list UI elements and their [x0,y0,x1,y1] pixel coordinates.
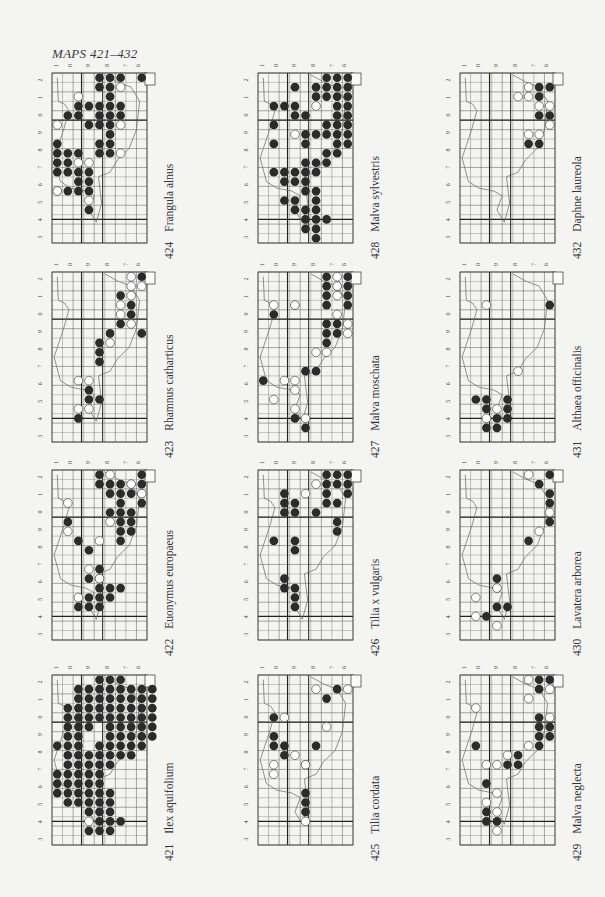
record-dot-open [74,376,83,385]
tick-label-side: 4 [37,820,43,823]
record-dot-filled [301,139,310,148]
record-dot-open [482,760,491,769]
record-dot-filled [95,83,104,92]
tick-label-top: 7 [531,461,537,464]
tick-label-top: 6 [341,461,347,464]
tick-label-top: 7 [329,666,335,669]
record-dot-filled [63,751,72,760]
record-dot-open [269,395,278,404]
record-dot-filled [280,741,289,750]
tick-label-top: 0 [273,666,279,669]
record-dot-filled [63,723,72,732]
record-dot-filled [280,196,289,205]
record-dot-open [85,405,94,414]
channel-islands-inset [351,470,361,482]
record-dot-filled [343,73,352,82]
channel-islands-inset [145,73,155,85]
tick-label-side: 8 [37,148,43,151]
record-dot-filled [333,685,342,694]
tick-label-side: 3 [445,236,451,239]
tick-label-top: 9 [291,461,297,464]
map-grid: 1098762109876543 [438,57,593,257]
tick-label-side: 3 [37,236,43,239]
tick-label-side: 8 [37,750,43,753]
tick-label-side: 5 [445,400,451,403]
record-dot-filled [106,73,115,82]
tick-label-top: 0 [273,263,279,266]
channel-islands-inset [351,73,361,85]
tick-label-side: 4 [243,820,249,823]
species-name: Ilex aquifolium [163,763,175,834]
tick-label-top: 6 [135,64,141,67]
record-dot-open [269,770,278,779]
record-dot-filled [322,301,331,310]
map-grid: 1098762109876543 [236,256,391,456]
record-dot-open [545,685,554,694]
record-dot-open [545,508,554,517]
record-dot-open [545,713,554,722]
record-dot-filled [106,675,115,684]
tick-label-side: 4 [243,615,249,618]
record-dot-filled [269,310,278,319]
tick-label-top: 1 [461,666,467,669]
record-dot-filled [343,92,352,101]
tick-label-side: 6 [243,183,249,186]
tick-label-side: 1 [37,96,43,99]
record-dot-filled [545,470,554,479]
record-dot-filled [116,111,125,120]
record-dot-open [291,301,300,310]
record-dot-filled [333,499,342,508]
record-dot-filled [322,73,331,82]
record-dot-filled [74,102,83,111]
distribution-map: 1098762109876543 [30,659,185,859]
record-dot-open [85,565,94,574]
record-dot-filled [535,480,544,489]
tick-label-side: 5 [243,201,249,204]
record-dot-filled [333,111,342,120]
record-dot-open [85,817,94,826]
record-dot-filled [333,102,342,111]
tick-label-side: 8 [445,545,451,548]
distribution-map: 1098762109876543 [30,57,185,257]
record-dot-open [74,593,83,602]
tick-label-side: 2 [37,681,43,684]
tick-label-side: 7 [445,563,451,566]
record-dot-filled [322,282,331,291]
record-dot-filled [137,470,146,479]
tick-label-side: 7 [37,365,43,368]
tick-label-side: 8 [37,545,43,548]
record-dot-filled [524,536,533,545]
tick-label-side: 1 [243,96,249,99]
tick-label-top: 7 [123,64,129,67]
record-dot-filled [95,685,104,694]
record-dot-filled [322,130,331,139]
tick-label-top: 6 [543,263,549,266]
tick-label-side: 6 [445,183,451,186]
record-dot-filled [343,139,352,148]
record-dot-open [127,282,136,291]
record-dot-filled [116,508,125,517]
record-dot-filled [116,527,125,536]
tick-label-side: 6 [243,580,249,583]
record-dot-open [503,751,512,760]
record-dot-open [291,751,300,760]
record-dot-filled [95,741,104,750]
record-dot-filled [95,584,104,593]
record-dot-filled [127,685,136,694]
record-dot-open [291,130,300,139]
map-number: 429 [571,844,583,861]
record-dot-filled [95,395,104,404]
record-dot-open [493,584,502,593]
record-dot-filled [106,808,115,817]
record-dot-filled [116,675,125,684]
tick-label-side: 3 [243,633,249,636]
map-caption: 431Althaea officinalis [571,346,583,458]
record-dot-filled [85,789,94,798]
record-dot-filled [148,685,157,694]
record-dot-filled [137,713,146,722]
record-dot-open [95,536,104,545]
record-dot-open [116,301,125,310]
record-dot-filled [85,395,94,404]
record-dot-filled [137,704,146,713]
tick-label-side: 8 [37,347,43,350]
